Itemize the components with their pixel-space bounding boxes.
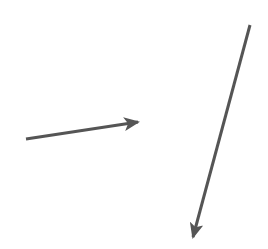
arrow-right-icon	[26, 122, 138, 139]
arrows-svg	[0, 0, 268, 249]
arrow-down-icon	[193, 25, 250, 237]
diagram-canvas	[0, 0, 268, 249]
